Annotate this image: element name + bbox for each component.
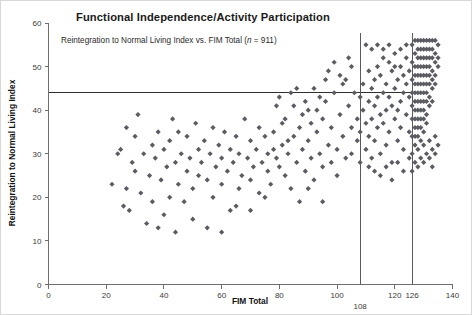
data-point-marker — [210, 195, 215, 200]
data-point-marker — [248, 177, 253, 182]
data-point-marker — [222, 129, 227, 134]
data-point-marker — [187, 156, 192, 161]
data-point-marker — [398, 47, 403, 52]
data-point-marker — [193, 121, 198, 126]
data-point-marker — [421, 108, 426, 113]
data-point-marker — [404, 81, 409, 86]
scatter-plot-svg: Functional Independence/Activity Partici… — [1, 1, 472, 315]
y-axis-title: Reintegration to Normal Living Index — [7, 79, 17, 226]
data-point-marker — [239, 173, 244, 178]
data-point-marker — [384, 164, 389, 169]
data-point-marker — [427, 81, 432, 86]
data-point-marker — [349, 64, 354, 69]
data-point-marker — [389, 68, 394, 73]
data-point-marker — [366, 99, 371, 104]
data-point-marker — [196, 147, 201, 152]
data-point-marker — [109, 182, 114, 187]
data-point-marker — [196, 173, 201, 178]
data-point-marker — [369, 47, 374, 52]
data-point-marker — [421, 160, 426, 165]
data-point-marker — [349, 151, 354, 156]
data-point-marker — [288, 90, 293, 95]
data-point-marker — [372, 138, 377, 143]
data-point-marker — [421, 142, 426, 147]
data-point-marker — [262, 134, 267, 139]
data-point-marker — [375, 64, 380, 69]
data-point-marker — [130, 160, 135, 165]
data-point-marker — [349, 125, 354, 130]
data-point-marker — [132, 169, 137, 174]
data-point-marker — [274, 103, 279, 108]
data-point-marker — [317, 94, 322, 99]
x-tick-label: 140 — [446, 291, 460, 300]
data-point-marker — [412, 160, 417, 165]
data-point-marker — [141, 151, 146, 156]
data-point-marker — [343, 77, 348, 82]
data-point-marker — [161, 147, 166, 152]
data-point-marker — [303, 169, 308, 174]
data-point-marker — [274, 156, 279, 161]
data-point-marker — [369, 156, 374, 161]
data-point-marker — [248, 138, 253, 143]
data-point-marker — [418, 156, 423, 161]
data-point-marker — [346, 55, 351, 60]
y-tick-label: 40 — [33, 106, 42, 115]
data-point-marker — [366, 68, 371, 73]
data-point-marker — [156, 225, 161, 230]
data-point-marker — [435, 55, 440, 60]
data-point-marker — [167, 195, 172, 200]
data-point-marker — [150, 199, 155, 204]
data-point-marker — [340, 134, 345, 139]
data-point-marker — [355, 116, 360, 121]
data-point-marker — [415, 164, 420, 169]
data-point-marker — [430, 55, 435, 60]
data-point-marker — [386, 129, 391, 134]
data-point-marker — [427, 64, 432, 69]
data-point-marker — [306, 108, 311, 113]
data-point-marker — [283, 173, 288, 178]
data-point-marker — [410, 42, 415, 47]
data-point-marker — [124, 186, 129, 191]
data-point-marker — [360, 81, 365, 86]
data-point-marker — [369, 116, 374, 121]
data-point-marker — [427, 94, 432, 99]
data-point-marker — [430, 164, 435, 169]
data-point-marker — [407, 68, 412, 73]
chart-title: Functional Independence/Activity Partici… — [76, 11, 330, 23]
data-point-marker — [430, 86, 435, 91]
data-point-marker — [248, 208, 253, 213]
data-point-marker — [435, 42, 440, 47]
data-point-marker — [135, 112, 140, 117]
data-point-marker — [309, 121, 314, 126]
data-point-marker — [219, 182, 224, 187]
y-tick-label: 10 — [33, 237, 42, 246]
data-point-marker — [208, 151, 213, 156]
data-point-marker — [170, 116, 175, 121]
data-point-marker — [433, 151, 438, 156]
chart-subtitle-suffix: = 911) — [252, 36, 277, 45]
data-point-marker — [297, 199, 302, 204]
data-point-marker — [199, 160, 204, 165]
data-point-marker — [254, 147, 259, 152]
data-point-marker — [381, 55, 386, 60]
data-point-marker — [395, 138, 400, 143]
data-point-marker — [427, 73, 432, 78]
data-point-marker — [415, 134, 420, 139]
data-point-marker — [435, 64, 440, 69]
data-point-marker — [412, 51, 417, 56]
y-tick-label: 0 — [37, 281, 42, 290]
data-point-marker — [358, 129, 363, 134]
data-point-marker — [398, 125, 403, 130]
data-point-marker — [329, 160, 334, 165]
data-point-marker — [337, 112, 342, 117]
data-point-marker — [228, 208, 233, 213]
data-point-marker — [176, 182, 181, 187]
data-point-marker — [433, 134, 438, 139]
data-point-marker — [259, 160, 264, 165]
data-point-marker — [395, 108, 400, 113]
data-point-marker — [363, 121, 368, 126]
data-point-marker — [401, 169, 406, 174]
chart-subtitle: Reintegration to Normal Living Index vs.… — [61, 36, 277, 45]
data-point-marker — [395, 160, 400, 165]
data-point-marker — [147, 173, 152, 178]
